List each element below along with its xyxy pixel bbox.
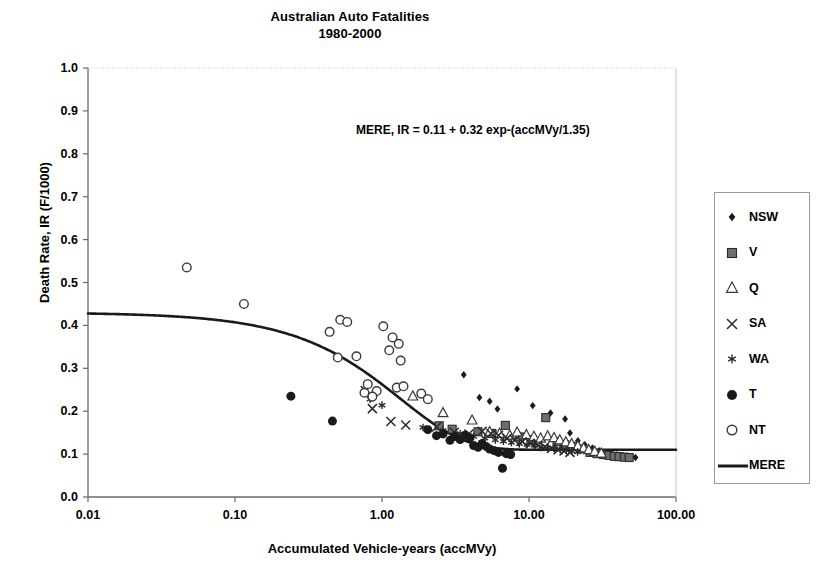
series-nt-point-10 (379, 322, 388, 331)
series-q-point-2 (467, 415, 477, 424)
y-tick-label-8: 0.8 (34, 148, 78, 160)
mere-model-curve (88, 314, 676, 450)
legend-item-v[interactable]: V (715, 235, 811, 271)
legend-item-q[interactable]: Q (715, 270, 811, 306)
legend-label-t: T (749, 388, 757, 401)
series-nt-point-4 (343, 318, 352, 327)
legend-marker-mere-icon (715, 456, 749, 476)
legend-marker-svg (715, 243, 749, 263)
x-tick-label-1: 0.10 (190, 509, 280, 521)
y-tick-label-7: 0.7 (34, 191, 78, 203)
legend-label-mere: MERE (749, 459, 785, 472)
series-sa-point-2 (386, 417, 395, 426)
y-tick-label-10: 1.0 (34, 62, 78, 74)
legend-marker-shape-q (727, 282, 738, 292)
series-nt-point-13 (394, 340, 403, 349)
series-t-point-19 (506, 450, 515, 459)
series-nsw-point-2 (487, 398, 493, 405)
legend-item-mere[interactable]: MERE (715, 448, 811, 484)
legend-item-sa[interactable]: SA (715, 306, 811, 342)
series-q-point-6 (512, 427, 522, 436)
series-t-point-17 (498, 464, 507, 473)
series-nt-point-16 (399, 382, 408, 391)
y-tick-label-2: 0.2 (34, 405, 78, 417)
x-tick-label-2: 1.00 (337, 509, 427, 521)
legend-marker-sa-icon (715, 314, 749, 334)
y-tick-label-3: 0.3 (34, 362, 78, 374)
legend-q-point-0 (727, 282, 738, 292)
series-v-point-4 (501, 421, 509, 429)
legend-label-nt: NT (749, 424, 766, 437)
legend-marker-svg (715, 349, 749, 369)
series-t-point-0 (286, 392, 295, 401)
chart-legend: NSWVQSAWATNTMERE (714, 192, 810, 484)
series-sa-point-1 (368, 404, 377, 413)
series-nt-point-0 (182, 263, 191, 272)
y-tick-label-4: 0.4 (34, 319, 78, 331)
legend-marker-shape-sa (727, 318, 737, 328)
y-tick-label-6: 0.6 (34, 234, 78, 246)
legend-marker-svg (715, 385, 749, 405)
legend-item-t[interactable]: T (715, 377, 811, 413)
legend-marker-svg (715, 314, 749, 334)
series-nsw-point-0 (461, 371, 467, 378)
legend-label-v: V (749, 246, 757, 259)
x-tick-label-3: 10.00 (484, 509, 574, 521)
legend-item-nt[interactable]: NT (715, 412, 811, 448)
legend-item-wa[interactable]: WA (715, 341, 811, 377)
series-t-point-1 (328, 417, 337, 426)
y-tick-label-0: 0.0 (34, 491, 78, 503)
legend-marker-wa-icon (715, 349, 749, 369)
legend-t-point-0 (727, 390, 737, 400)
y-tick-label-9: 0.9 (34, 105, 78, 117)
series-nt-point-5 (333, 353, 342, 362)
series-nt-point-19 (368, 392, 377, 401)
legend-marker-shape-t (727, 390, 737, 400)
legend-marker-q-icon (715, 278, 749, 298)
legend-wa-point-0 (728, 355, 736, 364)
legend-v-point-0 (728, 248, 737, 257)
legend-label-sa: SA (749, 317, 766, 330)
series-nsw-point-8 (567, 429, 573, 436)
series-nsw-point-4 (514, 385, 520, 392)
legend-label-wa: WA (749, 353, 769, 366)
legend-marker-nt-icon (715, 420, 749, 440)
series-q-point-1 (438, 408, 448, 417)
legend-marker-nsw-icon (715, 207, 749, 227)
legend-marker-shape-v (728, 248, 737, 257)
series-t-point-2 (423, 425, 432, 434)
chart-root: Australian Auto Fatalities 1980-2000 Dea… (0, 0, 837, 577)
series-nt-point-6 (352, 352, 361, 361)
legend-marker-svg (715, 278, 749, 298)
series-t-point-16 (494, 448, 503, 457)
legend-item-nsw[interactable]: NSW (715, 199, 811, 235)
x-tick-label-4: 100.00 (631, 509, 721, 521)
series-nsw-point-1 (477, 394, 483, 401)
series-nsw-point-5 (530, 402, 536, 409)
legend-marker-v-icon (715, 243, 749, 263)
series-nt-point-14 (396, 356, 405, 365)
legend-marker-svg (715, 420, 749, 440)
series-wa-point-1 (379, 401, 386, 409)
series-nt-point-1 (240, 300, 249, 309)
series-q-point-0 (408, 391, 418, 400)
plot-canvas (0, 0, 837, 577)
series-nsw-point-3 (495, 405, 501, 412)
series-t-point-9 (465, 433, 474, 442)
legend-marker-shape-wa (728, 355, 736, 364)
legend-label-q: Q (749, 282, 759, 295)
legend-marker-shape-nsw (729, 213, 736, 222)
legend-label-nsw: NSW (749, 211, 778, 224)
legend-nt-point-0 (727, 425, 737, 435)
series-v-point-0 (435, 422, 443, 430)
legend-marker-shape-nt (727, 425, 737, 435)
series-nsw-point-7 (562, 415, 568, 422)
legend-sa-point-0 (727, 318, 737, 328)
series-v-point-19 (625, 454, 633, 462)
y-tick-label-5: 0.5 (34, 277, 78, 289)
x-tick-label-0: 0.01 (43, 509, 133, 521)
legend-marker-svg (715, 207, 749, 227)
series-sa-point-3 (401, 420, 410, 429)
legend-nsw-point-0 (729, 213, 736, 222)
legend-marker-t-icon (715, 385, 749, 405)
